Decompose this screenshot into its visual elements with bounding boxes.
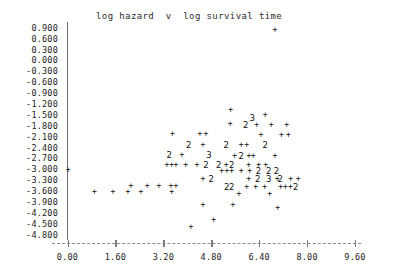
data-point: + (263, 111, 268, 119)
x-axis-tick-label: 6.40 (249, 252, 270, 262)
data-point: + (183, 161, 188, 169)
data-point: + (286, 131, 291, 139)
x-axis-tick-label: 3.20 (153, 252, 174, 262)
data-point: + (200, 201, 205, 209)
x-axis-line (52, 243, 361, 244)
data-point: + (173, 161, 178, 169)
data-point-cluster: 2 (203, 161, 208, 169)
data-point: + (211, 216, 216, 224)
data-point: + (203, 130, 208, 138)
data-point: + (229, 167, 234, 175)
x-axis-tick-label: 4.80 (201, 252, 222, 262)
data-point: + (253, 183, 258, 191)
data-point: + (259, 131, 264, 139)
x-axis-tick-mark (163, 240, 164, 247)
data-point: + (145, 182, 150, 190)
data-point: + (244, 183, 249, 191)
data-point: + (156, 182, 161, 190)
data-point: + (138, 188, 143, 196)
data-point: + (111, 188, 116, 196)
data-point: + (239, 141, 244, 149)
x-axis-tick-mark (115, 240, 116, 247)
data-point-cluster: 2 (186, 141, 191, 149)
data-point: + (200, 141, 205, 149)
data-point: + (194, 161, 199, 169)
data-point: + (228, 120, 233, 128)
data-point: + (188, 223, 193, 231)
data-point: + (273, 152, 278, 160)
x-axis-tick-label: 9.60 (344, 252, 365, 262)
data-point: + (251, 152, 256, 160)
data-point-cluster: 2 (167, 151, 172, 159)
x-axis-tick-mark (259, 240, 260, 247)
x-axis-tick-labels: 0.001.603.204.806.408.009.60 (0, 252, 419, 266)
x-axis-tick-label: 8.00 (296, 252, 317, 262)
data-point: + (273, 26, 278, 34)
data-point: + (232, 152, 237, 160)
data-point: + (275, 204, 280, 212)
x-axis-tick-label: 1.60 (105, 252, 126, 262)
data-point: + (267, 190, 272, 198)
data-point: + (244, 141, 249, 149)
data-point: + (170, 130, 175, 138)
data-point-cluster: 2 (224, 141, 229, 149)
data-point: + (269, 121, 274, 129)
x-axis-tick-mark (355, 240, 356, 247)
data-point: + (169, 188, 174, 196)
data-point: + (228, 106, 233, 114)
data-point: + (200, 175, 205, 183)
data-point: + (126, 188, 131, 196)
data-point-cluster: 2 (238, 152, 243, 160)
data-point-cluster: 2 (262, 141, 267, 149)
data-point: + (179, 151, 184, 159)
data-point: + (197, 130, 202, 138)
data-point: + (279, 131, 284, 139)
x-axis-tick-mark (211, 240, 212, 247)
data-point: + (239, 167, 244, 175)
data-point-cluster: 2 (293, 183, 298, 191)
data-point-cluster: 3 (206, 151, 211, 159)
data-point: + (236, 190, 241, 198)
data-point-cluster: 2 (209, 175, 214, 183)
x-axis-tick-mark (68, 240, 69, 247)
data-point: + (284, 121, 289, 129)
data-point-cluster: 2 (229, 183, 234, 191)
x-axis-tick-mark (307, 240, 308, 247)
data-point-cluster: 2 (243, 121, 248, 129)
x-axis-tick-label: 0.00 (57, 252, 78, 262)
data-point: + (230, 201, 235, 209)
data-point: + (92, 188, 97, 196)
data-point: + (66, 166, 71, 174)
data-point: + (254, 121, 259, 129)
scatter-plot: log hazard v log survival time 0.9000.60… (0, 0, 419, 276)
data-points-layer: +++3+2+++++++++2+2++22+3+2++++++++22+2++… (0, 0, 419, 276)
